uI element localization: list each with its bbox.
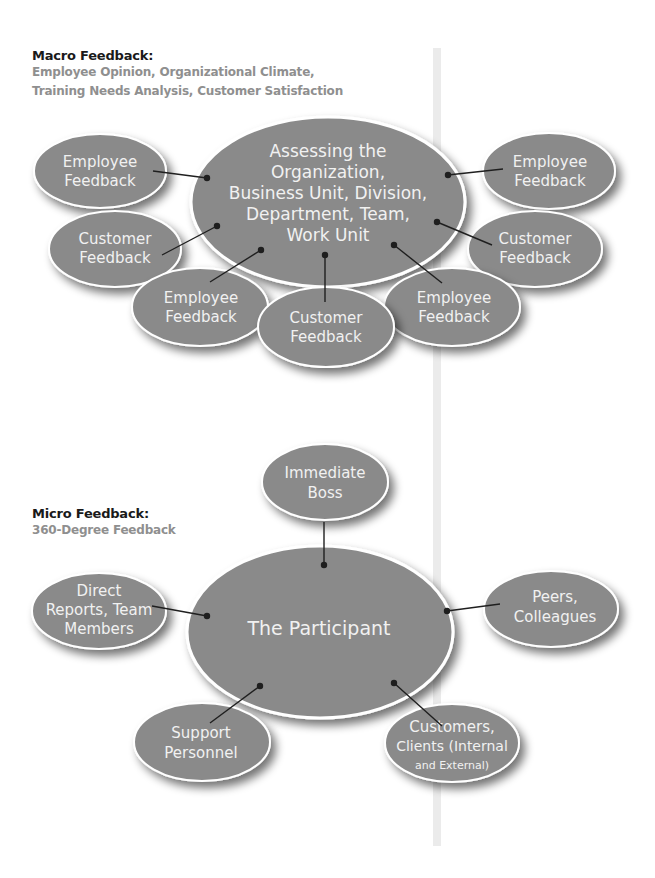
macro-center-line1: Assessing the <box>269 141 386 161</box>
micro-node-bottom-left: Support Personnel <box>134 703 270 781</box>
macro-node-left-top: Employee Feedback <box>34 134 166 208</box>
macro-node-right-top: Employee Feedback <box>483 133 615 209</box>
micro-node-right-line1: Peers, <box>532 588 578 606</box>
micro-node-top-line1: Immediate <box>285 464 366 482</box>
macro-node-left-mid-line2: Feedback <box>79 249 151 267</box>
micro-node-bottom-left-line2: Personnel <box>164 744 237 762</box>
micro-node-top: Immediate Boss <box>262 444 388 520</box>
feedback-diagrams: Employee Feedback Customer Feedback Empl… <box>0 0 655 878</box>
micro-node-top-line2: Boss <box>307 484 342 502</box>
macro-center-line4: Department, Team, <box>246 204 410 224</box>
micro-node-bottom-right-line3: and External) <box>415 759 489 772</box>
micro-node-right: Peers, Colleagues <box>484 571 618 647</box>
macro-node-bottom-left: Employee Feedback <box>132 268 268 346</box>
macro-node-bottom-right-line1: Employee <box>417 289 491 307</box>
micro-node-bottom-left-line1: Support <box>171 724 230 742</box>
macro-node-left-top-line1: Employee <box>63 153 137 171</box>
micro-node-left-line2: Reports, Team <box>46 601 153 619</box>
macro-node-left-top-line2: Feedback <box>64 172 136 190</box>
micro-node-left: Direct Reports, Team Members <box>32 573 166 649</box>
macro-center-line5: Work Unit <box>286 225 369 245</box>
macro-center-node: Assessing the Organization, Business Uni… <box>191 117 465 287</box>
macro-node-right-top-line2: Feedback <box>514 172 586 190</box>
macro-node-left-mid-line1: Customer <box>79 230 153 248</box>
macro-node-right-top-line1: Employee <box>513 153 587 171</box>
macro-node-bottom-right-line2: Feedback <box>418 308 490 326</box>
macro-node-bottom-center: Customer Feedback <box>258 287 394 367</box>
macro-node-right-mid-line2: Feedback <box>499 249 571 267</box>
micro-node-bottom-right: Customers, Clients (Internal and Externa… <box>385 704 519 782</box>
macro-center-line3: Business Unit, Division, <box>229 183 428 203</box>
macro-node-bottom-center-line2: Feedback <box>290 328 362 346</box>
micro-node-bottom-right-line1: Customers, <box>409 718 494 736</box>
micro-node-left-line1: Direct <box>77 582 122 600</box>
macro-node-bottom-right: Employee Feedback <box>384 268 520 346</box>
micro-node-right-line2: Colleagues <box>514 608 597 626</box>
micro-center-node: The Participant <box>187 546 453 718</box>
macro-node-bottom-left-line1: Employee <box>164 289 238 307</box>
micro-diagram: Immediate Boss Direct Reports, Team Memb… <box>32 444 618 782</box>
micro-node-left-line3: Members <box>64 620 134 638</box>
micro-center-line1: The Participant <box>246 617 390 639</box>
macro-node-bottom-left-line2: Feedback <box>165 308 237 326</box>
macro-diagram: Employee Feedback Customer Feedback Empl… <box>34 117 615 367</box>
macro-node-right-mid-line1: Customer <box>499 230 573 248</box>
macro-center-line2: Organization, <box>271 162 385 182</box>
micro-node-bottom-right-line2: Clients (Internal <box>396 738 508 754</box>
macro-node-bottom-center-line1: Customer <box>290 309 364 327</box>
